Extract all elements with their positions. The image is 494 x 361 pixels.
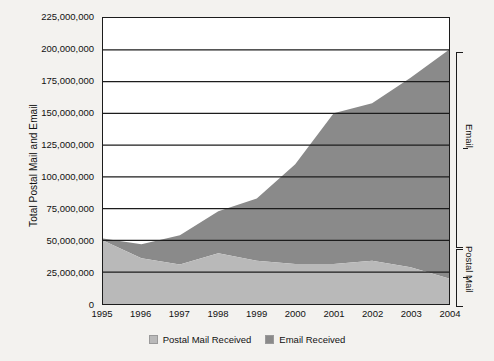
- x-tick-label: 1997: [159, 308, 199, 319]
- area-chart-svg: [103, 18, 449, 304]
- y-tick-label: 175,000,000: [41, 76, 94, 86]
- y-tick-label: 50,000,000: [46, 236, 94, 246]
- area-email-received: [103, 50, 449, 279]
- x-tick-label: 2000: [275, 308, 315, 319]
- x-tick-label: 2001: [314, 308, 354, 319]
- x-tick-label: 2002: [353, 308, 393, 319]
- x-axis-tick-labels: 1995199619971998199920002001200220032004: [102, 308, 450, 324]
- side-bracket-annotations: Email Postal Mail: [452, 0, 494, 361]
- chart-legend: Postal Mail ReceivedEmail Received: [0, 334, 494, 345]
- y-tick-label: 100,000,000: [41, 172, 94, 182]
- legend-label: Email Received: [279, 334, 345, 345]
- x-tick-label: 2003: [391, 308, 431, 319]
- legend-item[interactable]: Postal Mail Received: [149, 334, 252, 345]
- legend-swatch-icon: [265, 335, 274, 344]
- postal-mail-bracket-label: Postal Mail: [464, 246, 474, 292]
- chart-container: Total Postal Mail and Email 225,000,000 …: [0, 0, 494, 361]
- plot-area: [102, 17, 450, 305]
- email-bracket-tick: [463, 148, 468, 149]
- x-tick-label: 1999: [237, 308, 277, 319]
- email-bracket: [456, 52, 463, 248]
- y-tick-label: 75,000,000: [46, 204, 94, 214]
- legend-label: Postal Mail Received: [163, 334, 252, 345]
- y-tick-label: 25,000,000: [46, 268, 94, 278]
- email-bracket-label: Email: [464, 124, 474, 148]
- y-tick-label: 125,000,000: [41, 140, 94, 150]
- legend-swatch-icon: [149, 335, 158, 344]
- y-tick-label: 200,000,000: [41, 44, 94, 54]
- y-tick-label: 150,000,000: [41, 108, 94, 118]
- postal-mail-bracket: [456, 249, 463, 307]
- y-axis-tick-labels: 225,000,000 200,000,000 175,000,000 150,…: [0, 0, 98, 361]
- x-tick-label: 1998: [198, 308, 238, 319]
- x-tick-label: 1996: [121, 308, 161, 319]
- legend-item[interactable]: Email Received: [265, 334, 345, 345]
- x-tick-label: 1995: [82, 308, 122, 319]
- y-tick-label: 225,000,000: [41, 12, 94, 22]
